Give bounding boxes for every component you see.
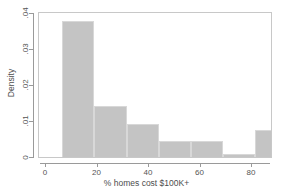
histogram-bar — [191, 141, 223, 158]
plot-panel — [38, 12, 272, 158]
x-axis-tick — [251, 163, 252, 167]
histogram-bar — [127, 124, 159, 158]
x-axis-title: % homes cost $100K+ — [0, 178, 293, 188]
y-axis-line — [33, 13, 34, 158]
y-axis-tick-label: 0 — [21, 152, 30, 162]
x-axis-line — [40, 163, 270, 164]
y-axis-tick-label: .01 — [21, 116, 30, 126]
y-axis-tick-label: .02 — [21, 80, 30, 90]
x-axis-tick — [148, 163, 149, 167]
y-axis-tick — [29, 157, 33, 158]
y-axis-tick — [29, 121, 33, 122]
histogram-bar — [94, 106, 126, 158]
histogram-bar — [255, 130, 272, 158]
x-axis-tick — [97, 163, 98, 167]
y-axis-tick-label: .04 — [21, 8, 30, 18]
x-axis-tick-label: 0 — [30, 168, 60, 178]
histogram-bar — [159, 141, 191, 158]
y-axis-tick — [29, 85, 33, 86]
y-axis-title: Density — [6, 58, 16, 108]
x-axis-tick-label: 20 — [82, 168, 112, 178]
histogram-figure: 020406080 0.01.02.03.04 % homes cost $10… — [0, 0, 293, 192]
y-axis-tick — [29, 13, 33, 14]
x-axis-tick-label: 40 — [133, 168, 163, 178]
histogram-bar — [223, 154, 255, 158]
x-axis-tick — [200, 163, 201, 167]
x-axis-tick-label: 80 — [236, 168, 266, 178]
y-axis-tick — [29, 49, 33, 50]
x-axis-tick — [45, 163, 46, 167]
histogram-bar — [62, 21, 94, 158]
y-axis-tick-label: .03 — [21, 44, 30, 54]
bars-group — [39, 13, 271, 157]
x-axis-tick-label: 60 — [185, 168, 215, 178]
